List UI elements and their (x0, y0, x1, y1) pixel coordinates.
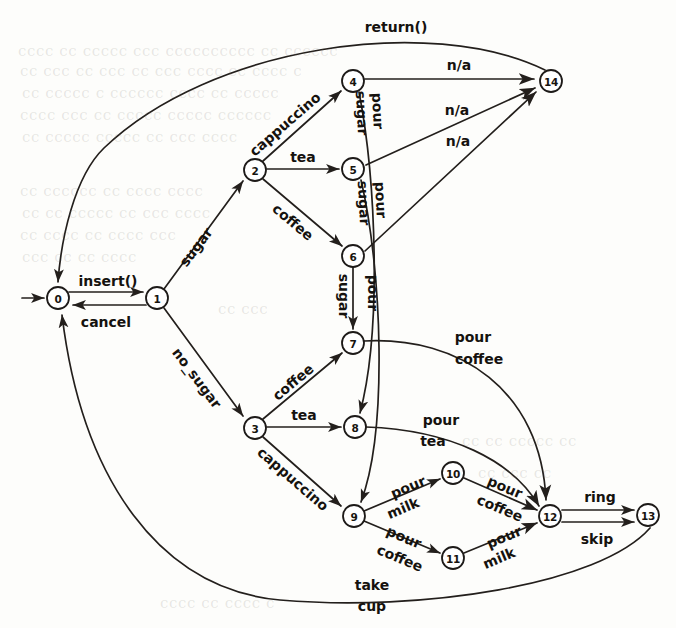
edge-label-pour-a: pour (369, 92, 387, 129)
node-7-label: 7 (349, 338, 356, 350)
node-8-label: 8 (351, 422, 358, 434)
edge-label-pour-b: pour (372, 181, 390, 218)
edge-label-coffee-top: coffee (269, 200, 316, 243)
edge-label-take: take (355, 577, 390, 593)
node-0[interactable]: 0 (47, 287, 69, 309)
edge-label-cappuccino-bottom: cappuccino (254, 444, 332, 515)
fsm-canvas: 0 1 2 3 4 5 6 (0, 0, 676, 628)
node-12[interactable]: 12 (539, 505, 561, 527)
edge-label-insert: insert() (79, 273, 138, 289)
node-10-label: 10 (446, 468, 460, 480)
edge-label-return: return() (365, 19, 428, 35)
edge-label-milk-f: milk (384, 494, 422, 522)
node-13[interactable]: 13 (637, 504, 659, 526)
node-1-label: 1 (153, 293, 160, 305)
edge-label-coffee-bottom: coffee (269, 360, 316, 403)
node-5[interactable]: 5 (342, 158, 364, 180)
edge-label-coffee-d: coffee (455, 351, 503, 367)
edge-label-pour-c: pour (365, 275, 381, 312)
node-11[interactable]: 11 (442, 547, 464, 569)
node-2[interactable]: 2 (244, 159, 266, 181)
node-9[interactable]: 9 (343, 505, 365, 527)
node-3[interactable]: 3 (244, 417, 266, 439)
node-6[interactable]: 6 (342, 245, 364, 267)
node-4-label: 4 (349, 76, 356, 88)
node-5-label: 5 (349, 164, 356, 176)
edge-label-pour-e: pour (423, 412, 460, 428)
node-7[interactable]: 7 (342, 332, 364, 354)
edge-label-na-3: n/a (446, 133, 471, 149)
edge-13-0 (62, 315, 650, 603)
edge-label-cup: cup (358, 598, 386, 614)
edge-label-sugar: sugar (176, 224, 216, 269)
edge-label-cancel: cancel (81, 314, 131, 330)
edge-label-na-2: n/a (445, 102, 470, 118)
node-4[interactable]: 4 (342, 70, 364, 92)
edge-label-ring: ring (584, 489, 616, 505)
edge-label-skip: skip (581, 531, 613, 547)
node-3-label: 3 (251, 423, 258, 435)
node-14-label: 14 (544, 76, 558, 88)
node-2-label: 2 (251, 165, 258, 177)
node-8[interactable]: 8 (344, 416, 366, 438)
node-13-label: 13 (641, 510, 655, 522)
edge-label-pour-d: pour (455, 329, 492, 345)
edge-label-na-1: n/a (447, 57, 472, 73)
edge-label-sugar-a: sugar (353, 90, 371, 136)
node-10[interactable]: 10 (442, 462, 464, 484)
edge-5-14 (366, 88, 535, 165)
edge-label-tea-e: tea (420, 433, 446, 449)
node-9-label: 9 (350, 511, 357, 523)
edge-label-milk-i: milk (480, 544, 518, 572)
node-14[interactable]: 14 (540, 70, 562, 92)
node-12-label: 12 (543, 511, 557, 523)
edge-label-sugar-b: sugar (355, 180, 373, 226)
node-11-label: 11 (446, 553, 460, 565)
node-6-label: 6 (349, 251, 356, 263)
edge-label-tea-top: tea (290, 149, 316, 165)
node-0-label: 0 (54, 293, 61, 305)
edge-label-sugar-c: sugar (336, 274, 352, 319)
node-1[interactable]: 1 (146, 287, 168, 309)
edge-label-tea-bottom: tea (291, 407, 317, 423)
state-diagram-root: 0 1 2 3 4 5 6 (0, 0, 676, 628)
